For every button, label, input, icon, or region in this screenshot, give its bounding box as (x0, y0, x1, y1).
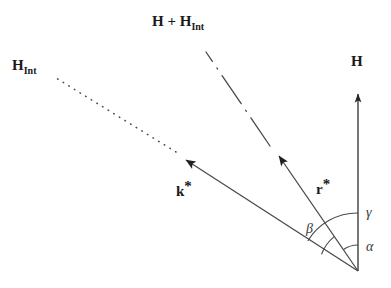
label-h-sum: H + HInt (152, 14, 204, 29)
h-sum-dashdot-extension (206, 52, 270, 146)
vector-r-star-line (279, 156, 358, 271)
label-h-sum-base: H + H (152, 13, 191, 29)
label-h: H (351, 54, 363, 69)
label-k-star: k* (176, 184, 192, 199)
label-k-star-asterisk: * (184, 178, 192, 194)
label-r-star-asterisk: * (323, 176, 331, 192)
label-h-base: H (351, 53, 363, 69)
label-h-sum-subscript: Int (191, 21, 204, 32)
label-angle-gamma: γ (366, 206, 372, 220)
label-h-int-subscript: Int (24, 65, 37, 76)
vector-canvas (0, 0, 391, 288)
label-angle-beta: β (306, 222, 313, 236)
vector-k-star-line (186, 160, 358, 271)
label-angle-alpha: α (366, 240, 373, 254)
h-int-dotted-extension (56, 78, 176, 152)
vector-diagram: HInt H + HInt H k* r* α β γ (0, 0, 391, 288)
label-h-int: HInt (12, 58, 36, 73)
label-r-star-base: r (316, 181, 323, 197)
label-h-int-base: H (12, 57, 24, 73)
angle-arc-alpha (344, 245, 359, 250)
label-r-star: r* (316, 182, 330, 197)
angle-arc-gamma (308, 213, 358, 241)
